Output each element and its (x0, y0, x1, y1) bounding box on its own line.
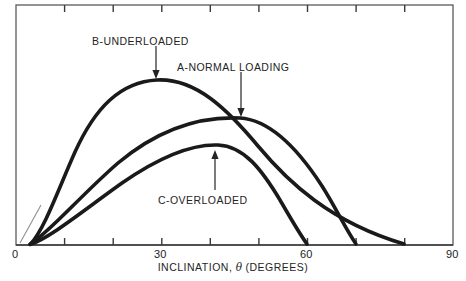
curve-a-normal-loading (30, 118, 356, 244)
leader-arrow-curve-b (152, 46, 159, 79)
x-tick-label-60: 60 (300, 249, 313, 260)
x-tick-label-90: 90 (446, 249, 459, 260)
x-tick-label-30: 30 (154, 249, 167, 260)
plot-area (0, 0, 466, 281)
annotation-curve-b: B-UNDERLOADED (92, 36, 189, 47)
x-axis-title: INCLINATION, θ (DEGREES) (0, 262, 466, 273)
chart-figure: 0 30 60 90 B-UNDERLOADED A-NORMAL LOADIN… (0, 0, 466, 281)
annotation-curve-c: C-OVERLOADED (158, 195, 247, 206)
annotation-curve-a: A-NORMAL LOADING (177, 62, 289, 73)
x-axis-ticks-top (65, 5, 405, 12)
plot-frame (16, 5, 453, 245)
leader-arrow-curve-c (211, 150, 218, 190)
curve-b-underloaded (31, 80, 404, 244)
theta-symbol: θ (236, 261, 242, 273)
x-axis-title-suffix: (DEGREES) (245, 261, 308, 273)
x-axis-title-prefix: INCLINATION, (158, 261, 233, 273)
leader-arrow-curve-a (237, 72, 244, 117)
x-tick-label-0: 0 (12, 249, 18, 260)
